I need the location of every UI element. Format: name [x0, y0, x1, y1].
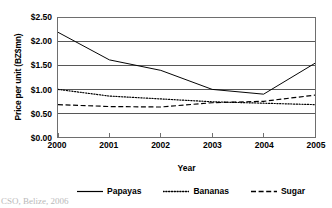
legend-label: Sugar	[281, 186, 305, 196]
legend-item-bananas: Bananas	[163, 186, 228, 196]
legend-swatch-solid	[77, 188, 103, 195]
chart-legend: PapayasBananasSugar	[57, 184, 325, 198]
x-tick-label: 2004	[255, 140, 274, 150]
x-tick-label: 2001	[99, 140, 118, 150]
x-tick-label: 2003	[203, 140, 222, 150]
legend-item-sugar: Sugar	[251, 186, 305, 196]
chart-lines-svg	[58, 18, 315, 137]
y-tick-label: $0.00	[14, 133, 52, 143]
y-tick-label: $0.50	[14, 109, 52, 119]
series-line-bananas	[58, 89, 315, 104]
legend-item-papayas: Papayas	[77, 186, 142, 196]
x-tick-label: 2000	[48, 140, 67, 150]
legend-label: Bananas	[193, 186, 228, 196]
plot-area	[57, 17, 316, 138]
y-axis-tick-labels: $0.00$0.50$1.00$1.50$2.00$2.50	[14, 0, 52, 208]
legend-swatch-dotted	[163, 188, 189, 195]
y-tick-label: $2.00	[14, 36, 52, 46]
x-axis-label: Year	[57, 163, 316, 173]
x-tick-label: 2002	[151, 140, 170, 150]
source-caption: CSO, Belize, 2006	[1, 196, 69, 206]
x-tick-label: 2005	[307, 140, 326, 150]
chart-figure: Price per unit (BZ$mn) $0.00$0.50$1.00$1…	[0, 0, 332, 208]
y-tick-label: $1.00	[14, 85, 52, 95]
x-axis-tick-labels: 200020012002200320042005	[57, 140, 316, 154]
legend-swatch-dashed	[251, 188, 277, 195]
legend-label: Papayas	[107, 186, 142, 196]
series-line-sugar	[58, 95, 315, 107]
y-tick-label: $2.50	[14, 12, 52, 22]
y-tick-label: $1.50	[14, 60, 52, 70]
